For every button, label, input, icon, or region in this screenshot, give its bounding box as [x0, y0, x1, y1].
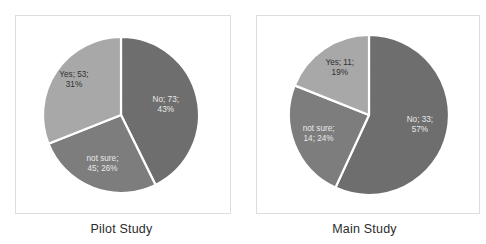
- pie-chart-pilot-study: No; 73;43%not sure;45; 26%Yes; 53;31%: [16, 16, 232, 215]
- pie-label-not-sure: not sure;45; 26%: [86, 154, 118, 173]
- pie-label-line2: 19%: [331, 68, 347, 77]
- pie-label-line1: No; 73;: [152, 95, 178, 104]
- pie-label-line2: 31%: [65, 80, 81, 89]
- pie-label-line2: 14; 24%: [303, 134, 333, 143]
- pie-label-line2: 43%: [157, 105, 173, 114]
- pie-label-line1: No; 33;: [406, 115, 432, 124]
- pie-label-line1: Yes; 11;: [325, 58, 354, 67]
- chart-frame-main-study: No; 33;57%not sure;14; 24%Yes; 11;19%: [256, 15, 480, 214]
- pie-chart-figure: No; 73;43%not sure;45; 26%Yes; 53;31% Pi…: [0, 0, 486, 244]
- pie-label-line1: not sure;: [302, 124, 334, 133]
- chart-frame-pilot-study: No; 73;43%not sure;45; 26%Yes; 53;31%: [15, 15, 231, 214]
- panel-container: No; 73;43%not sure;45; 26%Yes; 53;31% Pi…: [0, 0, 486, 244]
- pie-label-line2: 57%: [411, 125, 427, 134]
- panel-caption-main-study: Main Study: [332, 222, 397, 236]
- pie-label-line1: Yes; 53;: [59, 70, 88, 79]
- pie-label-line2: 45; 26%: [87, 164, 117, 173]
- pie-label-line1: not sure;: [86, 154, 118, 163]
- panel-caption-pilot-study: Pilot Study: [91, 222, 153, 236]
- panel-pilot-study: No; 73;43%not sure;45; 26%Yes; 53;31% Pi…: [0, 0, 243, 244]
- panel-main-study: No; 33;57%not sure;14; 24%Yes; 11;19% Ma…: [243, 0, 486, 244]
- pie-chart-main-study: No; 33;57%not sure;14; 24%Yes; 11;19%: [257, 16, 481, 215]
- pie-label-not-sure: not sure;14; 24%: [302, 124, 334, 143]
